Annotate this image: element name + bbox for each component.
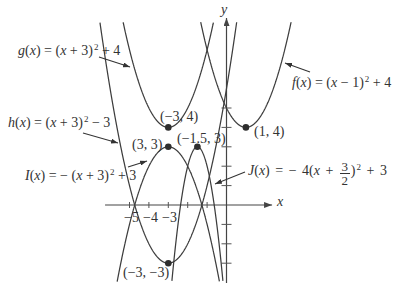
label-text: ): [351, 163, 356, 178]
label-text: + 3: [361, 163, 387, 178]
label-text: + 3): [66, 43, 93, 58]
i-label-arrow-icon: [128, 161, 147, 167]
vertex-point-dot: [165, 144, 172, 151]
exponent: 2: [356, 162, 362, 172]
fraction-denominator: 2: [340, 175, 350, 187]
label-text: h: [8, 115, 15, 130]
exponent: 2: [83, 114, 89, 124]
label-text: − 3: [88, 115, 110, 130]
x-tick-label: −4: [143, 211, 158, 225]
label-text: + 3): [56, 115, 83, 130]
y-axis-label: y: [221, 3, 227, 17]
f-label-arrow-icon: [285, 63, 310, 72]
function-graph-figure: y x −5 −4 −3 g(x) = (x + 3)2 + 4 f(x) = …: [0, 0, 394, 286]
curve-f: [201, 22, 291, 127]
x-tick-label: −5: [124, 211, 139, 225]
exponent: 2: [109, 167, 115, 177]
label-text: ) = (: [26, 115, 50, 130]
j-function-label: J(x) = − 4(x + 32)2 + 3: [248, 164, 387, 179]
exponent: 2: [364, 74, 370, 84]
label-text: g: [18, 43, 25, 58]
exponent: 2: [93, 42, 99, 52]
label-text: +: [320, 163, 339, 178]
label-text: + 3: [114, 168, 136, 183]
x-tick-label: −3: [162, 211, 177, 225]
j-label-arrow-icon: [215, 172, 245, 184]
f-function-label: f(x) = (x − 1)2 + 4: [292, 76, 391, 91]
label-text: − 1): [337, 75, 364, 90]
label-text: ) = (: [36, 43, 60, 58]
point-label: (−3, 4): [160, 110, 198, 124]
point-label: (−3, −3): [123, 266, 169, 280]
label-text: + 4: [369, 75, 391, 90]
vertex-point-dot: [165, 124, 172, 131]
label-text: + 3): [82, 168, 109, 183]
h-label-arrow-icon: [83, 133, 118, 143]
curves: [100, 22, 291, 281]
i-function-label: I(x) = − (x + 3)2 + 3: [25, 169, 136, 184]
h-function-label: h(x) = (x + 3)2 − 3: [8, 116, 110, 131]
point-label: (1, 4): [254, 125, 284, 139]
x-axis-label: x: [277, 195, 283, 209]
label-text: ) = (: [307, 75, 331, 90]
vertex-point-dot: [243, 124, 250, 131]
label-text: ) = − 4(: [265, 163, 314, 178]
label-text: ) = − (: [41, 168, 77, 183]
point-label: (−1.5, 3): [177, 132, 226, 146]
point-label: (3, 3): [132, 138, 162, 152]
g-function-label: g(x) = (x + 3)2 + 4: [18, 44, 120, 59]
label-text: + 4: [98, 43, 120, 58]
